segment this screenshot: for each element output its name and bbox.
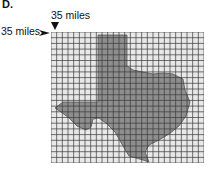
part-label: D. xyxy=(2,0,13,10)
texas-grid-figure xyxy=(51,32,204,163)
top-scale-label: 35 miles xyxy=(51,9,90,21)
right-arrow-icon xyxy=(39,29,50,37)
down-arrow-icon xyxy=(50,21,60,31)
left-scale-label: 35 miles xyxy=(1,25,40,37)
